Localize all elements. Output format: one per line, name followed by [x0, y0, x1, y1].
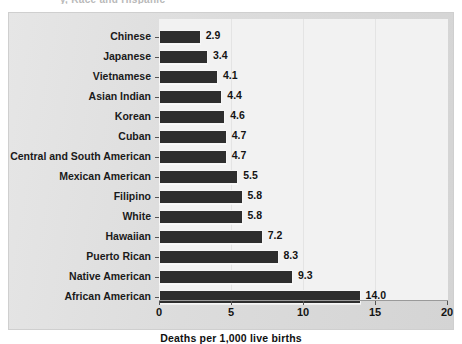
- category-tick: [155, 177, 159, 178]
- bar-row: 5.5: [159, 167, 448, 188]
- bar-value-label: 4.4: [227, 89, 242, 101]
- bar: [159, 270, 293, 284]
- bar-value-label: 5.8: [248, 189, 263, 201]
- category-label: Asian Indian: [89, 90, 151, 102]
- bar-value-label: 4.7: [232, 149, 247, 161]
- category-label: Japanese: [103, 50, 151, 62]
- bar-value-label: 5.5: [243, 169, 258, 181]
- x-axis-tick: [231, 301, 232, 305]
- bar: [159, 90, 222, 104]
- bar: [159, 250, 279, 264]
- category-tick: [155, 197, 159, 198]
- bar-row: 4.7: [159, 127, 448, 148]
- bar: [159, 70, 218, 84]
- bar: [159, 150, 227, 164]
- category-tick: [155, 277, 159, 278]
- bar: [159, 230, 263, 244]
- bar: [159, 30, 201, 44]
- bar-value-label: 9.3: [298, 269, 313, 281]
- bar-row: 4.6: [159, 107, 448, 128]
- bar-value-label: 7.2: [268, 229, 283, 241]
- category-label: Chinese: [110, 30, 151, 42]
- category-tick: [155, 257, 159, 258]
- category-label: Native American: [69, 270, 151, 282]
- bar-value-label: 4.1: [223, 69, 238, 81]
- bar-row: 4.4: [159, 87, 448, 108]
- x-axis-tick-label: 15: [369, 306, 381, 318]
- category-label: Central and South American: [10, 150, 151, 162]
- bar: [159, 210, 243, 224]
- bar-row: 2.9: [159, 27, 448, 48]
- category-tick: [155, 117, 159, 118]
- category-label: White: [122, 210, 151, 222]
- x-axis-tick-label: 0: [156, 306, 162, 318]
- bar-row: 7.2: [159, 227, 448, 248]
- category-tick: [155, 217, 159, 218]
- cropped-title-remnant: y, Race and Hispanic: [60, 0, 320, 4]
- bar-row: 5.8: [159, 187, 448, 208]
- bar-value-label: 3.4: [213, 49, 228, 61]
- bar: [159, 130, 227, 144]
- bar: [159, 110, 225, 124]
- category-label: Cuban: [118, 130, 151, 142]
- category-label: Korean: [115, 110, 151, 122]
- x-axis-tick: [447, 301, 448, 305]
- bar-row: 4.1: [159, 67, 448, 88]
- category-tick: [155, 57, 159, 58]
- x-axis-tick: [375, 301, 376, 305]
- category-tick: [155, 297, 159, 298]
- category-label: African American: [64, 290, 151, 302]
- category-tick: [155, 237, 159, 238]
- bar: [159, 170, 238, 184]
- category-label: Vietnamese: [93, 70, 151, 82]
- x-axis-tick-label: 10: [297, 306, 309, 318]
- bar-row: 8.3: [159, 247, 448, 268]
- category-label: Hawaiian: [105, 230, 151, 242]
- bar-value-label: 5.8: [248, 209, 263, 221]
- bar: [159, 190, 243, 204]
- bar-value-label: 4.6: [230, 109, 245, 121]
- bar-value-label: 2.9: [206, 29, 221, 41]
- x-axis-tick-label: 20: [441, 306, 453, 318]
- category-label: Mexican American: [59, 170, 151, 182]
- bar-row: 3.4: [159, 47, 448, 68]
- category-tick: [155, 37, 159, 38]
- category-tick: [155, 77, 159, 78]
- x-axis-tick-label: 5: [228, 306, 234, 318]
- category-tick: [155, 157, 159, 158]
- chart-figure-panel: 2.93.44.14.44.64.74.75.55.85.87.28.39.31…: [8, 12, 454, 330]
- bar-value-label: 4.7: [232, 129, 247, 141]
- x-axis-tick: [303, 301, 304, 305]
- x-axis-title: Deaths per 1,000 live births: [0, 332, 462, 344]
- category-label: Puerto Rican: [86, 250, 151, 262]
- bar-row: 5.8: [159, 207, 448, 228]
- bar: [159, 290, 361, 304]
- x-axis-tick: [159, 301, 160, 305]
- bar: [159, 50, 208, 64]
- bar-value-label: 8.3: [284, 249, 299, 261]
- category-label: Filipino: [114, 190, 151, 202]
- bar-row: 9.3: [159, 267, 448, 288]
- bar-row: 4.7: [159, 147, 448, 168]
- category-tick: [155, 97, 159, 98]
- category-tick: [155, 137, 159, 138]
